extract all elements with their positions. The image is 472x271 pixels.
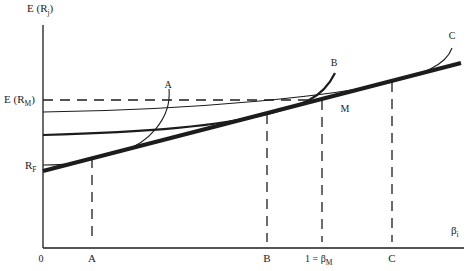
x-tick-c: C bbox=[388, 252, 395, 264]
curve-b bbox=[43, 73, 335, 135]
x-tick-a: A bbox=[88, 252, 96, 264]
y-axis-label: E (Rj) bbox=[27, 2, 54, 17]
expected-market-return-label: E (RM) bbox=[4, 93, 35, 108]
security-market-line bbox=[43, 63, 461, 171]
risk-free-rate-label: RF bbox=[25, 159, 37, 174]
capm-diagram: E (Rj) E (RM) RF 0 A B 1 = βM C βi A B C… bbox=[0, 0, 472, 271]
x-tick-b: B bbox=[263, 252, 270, 264]
curve-a-label: A bbox=[164, 79, 172, 90]
x-axis-label: βi bbox=[451, 224, 459, 239]
origin-label: 0 bbox=[39, 253, 44, 264]
market-point-label: M bbox=[341, 103, 350, 114]
curve-b-label: B bbox=[331, 57, 338, 68]
x-tick-beta-m: 1 = βM bbox=[305, 253, 333, 267]
curve-c-label: C bbox=[449, 30, 456, 41]
